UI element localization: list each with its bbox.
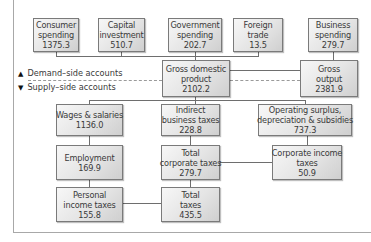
node-corporate-income-taxes: Corporate income taxes 50.9: [272, 145, 342, 180]
connector: [89, 100, 305, 101]
node-gross-output: Gross output 2381.9: [300, 60, 358, 97]
node-foreign-trade: Foreign trade 13.5: [233, 18, 283, 52]
node-capital-investment: Capital investment 510.7: [98, 18, 145, 52]
node-wages-salaries: Wages & salaries 1136.0: [56, 104, 123, 136]
connector: [230, 70, 300, 71]
demand-supply-divider: [230, 80, 300, 81]
connector: [220, 162, 272, 163]
node-consumer-spending: Consumer spending 1375.3: [33, 18, 79, 52]
connector: [123, 203, 161, 204]
node-employment: Employment 169.9: [56, 145, 123, 180]
legend-demand: ▲Demand–side accounts: [18, 68, 122, 78]
connector: [56, 56, 259, 57]
node-operating-surplus: Operating surplus, depreciation & subsid…: [258, 104, 352, 136]
frame-left-border: [13, 0, 14, 233]
node-gross-domestic-product: Gross domestic product 2102.2: [162, 60, 230, 97]
connector: [89, 135, 90, 145]
frame-bottom-border: [13, 232, 371, 233]
connector: [190, 135, 191, 145]
node-business-spending: Business spending 279.7: [308, 18, 358, 52]
node-total-taxes: Total taxes 435.5: [161, 187, 220, 222]
triangle-up-icon: ▲: [18, 70, 23, 78]
node-indirect-business-taxes: Indirect business taxes 228.8: [161, 104, 220, 136]
node-personal-income-taxes: Personal income taxes 155.8: [56, 187, 123, 222]
node-total-corporate-taxes: Total corporate taxes 279.7: [161, 145, 220, 180]
demand-supply-divider: [28, 80, 162, 81]
node-government-spending: Government spending 202.7: [168, 18, 222, 52]
legend-supply: ▼Supply–side accounts: [18, 82, 116, 92]
connector: [89, 180, 90, 187]
connector: [307, 135, 308, 145]
triangle-down-icon: ▼: [18, 84, 23, 92]
connector: [190, 180, 191, 187]
